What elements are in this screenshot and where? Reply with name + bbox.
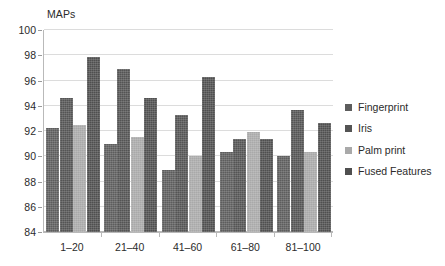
x-tick-separator — [101, 232, 102, 237]
y-tick-label: 86 — [0, 202, 36, 212]
y-tick-label: 92 — [0, 126, 36, 136]
legend-swatch-icon — [345, 104, 352, 111]
x-tick-separator — [274, 232, 275, 237]
bar-group-81–100 — [275, 30, 333, 232]
x-tick-label: 81–100 — [274, 241, 332, 253]
bar[interactable] — [189, 156, 202, 232]
bar[interactable] — [104, 144, 117, 232]
y-tick-mark — [38, 182, 42, 183]
bar[interactable] — [291, 110, 304, 232]
bar[interactable] — [175, 115, 188, 232]
bar-chart-figure: MAPs 1009896949290888684 1–2021–4041–606… — [0, 0, 445, 266]
bar[interactable] — [131, 137, 144, 232]
bar[interactable] — [220, 152, 233, 232]
legend-item-palm-print[interactable]: Palm print — [345, 141, 445, 159]
y-tick-label: 90 — [0, 151, 36, 161]
legend-item-label: Iris — [358, 123, 372, 134]
legend-item-label: Fused Features — [358, 166, 432, 177]
bar[interactable] — [202, 77, 215, 232]
x-axis-tick-labels: 1–2021–4041–6061–8081–100 — [43, 232, 332, 266]
legend-item-fused-features[interactable]: Fused Features — [345, 163, 445, 181]
bar-group-61–80 — [217, 30, 275, 232]
bar[interactable] — [162, 170, 175, 232]
y-tick-label: 94 — [0, 101, 36, 111]
y-tick-mark — [38, 156, 42, 157]
bar[interactable] — [247, 132, 260, 232]
x-tick-separator — [159, 232, 160, 237]
x-tick-separator — [331, 232, 332, 237]
legend-item-iris[interactable]: Iris — [345, 120, 445, 138]
y-tick-mark — [38, 131, 42, 132]
plot-area — [43, 30, 333, 233]
y-axis-tick-labels: 1009896949290888684 — [0, 0, 43, 266]
bar[interactable] — [117, 69, 130, 232]
y-tick-label: 84 — [0, 227, 36, 237]
y-tick-mark — [38, 232, 42, 233]
bar-group-21–40 — [102, 30, 160, 232]
x-tick-separator — [216, 232, 217, 237]
x-tick-label: 41–60 — [159, 241, 217, 253]
bar[interactable] — [260, 139, 273, 232]
legend-item-label: Fingerprint — [358, 102, 408, 113]
chart-legend: FingerprintIrisPalm printFused Features — [345, 98, 445, 184]
x-tick-label: 1–20 — [43, 241, 101, 253]
bar-group-1–20 — [44, 30, 102, 232]
y-tick-label: 100 — [0, 25, 36, 35]
y-tick-mark — [38, 106, 42, 107]
legend-swatch-icon — [345, 125, 352, 132]
y-tick-mark — [38, 81, 42, 82]
y-tick-mark — [38, 207, 42, 208]
y-tick-mark — [38, 55, 42, 56]
bar[interactable] — [60, 98, 73, 232]
x-tick-label: 21–40 — [101, 241, 159, 253]
bar[interactable] — [73, 125, 86, 232]
y-tick-label: 98 — [0, 50, 36, 60]
bar[interactable] — [144, 98, 157, 232]
bar[interactable] — [87, 57, 100, 232]
y-axis-title: MAPs — [47, 8, 75, 20]
legend-swatch-icon — [345, 147, 352, 154]
bar[interactable] — [233, 139, 246, 232]
legend-item-fingerprint[interactable]: Fingerprint — [345, 98, 445, 116]
legend-swatch-icon — [345, 168, 352, 175]
y-tick-mark — [38, 30, 42, 31]
y-tick-label: 88 — [0, 177, 36, 187]
bar[interactable] — [304, 152, 317, 232]
bar[interactable] — [277, 156, 290, 232]
x-tick-label: 61–80 — [216, 241, 274, 253]
bar[interactable] — [318, 123, 331, 232]
legend-item-label: Palm print — [358, 145, 405, 156]
bar[interactable] — [46, 128, 59, 232]
y-tick-label: 96 — [0, 76, 36, 86]
bar-group-41–60 — [160, 30, 218, 232]
